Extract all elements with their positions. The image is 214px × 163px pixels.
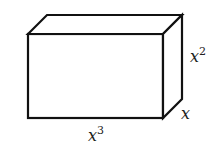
prism-edges <box>28 15 182 118</box>
prism-diagram: x2 x x3 <box>0 0 214 163</box>
top-face <box>28 15 182 34</box>
height-label: x2 <box>190 45 206 66</box>
front-face <box>28 34 163 118</box>
side-face <box>163 15 182 118</box>
depth-label: x <box>181 104 190 123</box>
length-label: x3 <box>88 124 104 145</box>
